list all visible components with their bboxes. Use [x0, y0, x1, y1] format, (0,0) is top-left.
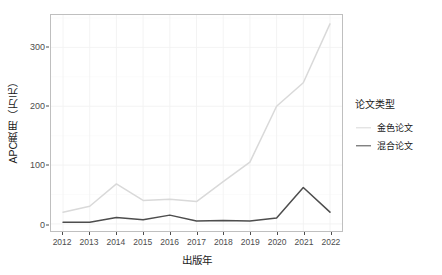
series-line-0	[63, 24, 330, 212]
x-tick-label: 2022	[321, 237, 340, 247]
x-tick-mark	[277, 232, 278, 235]
y-tick-label: 100	[20, 160, 45, 170]
x-tick-label: 2018	[214, 237, 233, 247]
y-axis-title-label: APC费用（万元）	[5, 76, 20, 164]
legend-item-label: 混合论文	[377, 139, 413, 152]
y-tick-mark	[46, 224, 49, 225]
y-tick-label: 300	[20, 42, 45, 52]
legend-key-line-icon	[355, 121, 372, 134]
x-tick-label: 2016	[160, 237, 179, 247]
x-tick-label: 2015	[133, 237, 152, 247]
x-tick-label: 2021	[295, 237, 314, 247]
x-tick-mark	[116, 232, 117, 235]
legend-item[interactable]: 金色论文	[355, 120, 440, 135]
y-axis-tick-labels: 0100200300	[20, 0, 45, 275]
legend-item-label: 金色论文	[377, 121, 413, 134]
x-tick-label: 2017	[187, 237, 206, 247]
legend-item[interactable]: 混合论文	[355, 138, 440, 153]
x-tick-label: 2012	[53, 237, 72, 247]
x-tick-mark	[223, 232, 224, 235]
y-tick-mark	[46, 46, 49, 47]
x-tick-label: 2020	[268, 237, 287, 247]
series-lines	[51, 15, 342, 231]
legend-items: 金色论文混合论文	[355, 120, 440, 153]
x-tick-mark	[197, 232, 198, 235]
x-tick-mark	[143, 232, 144, 235]
x-tick-mark	[304, 232, 305, 235]
y-tick-label: 200	[20, 101, 45, 111]
line-chart: APC费用（万元） 0100200300 2012201320142015201…	[0, 0, 442, 275]
y-tick-mark	[46, 106, 49, 107]
x-tick-label: 2013	[80, 237, 99, 247]
x-axis-title: 出版年	[50, 252, 343, 267]
x-tick-mark	[89, 232, 90, 235]
series-line-1	[63, 187, 330, 222]
x-tick-mark	[62, 232, 63, 235]
legend-title: 论文类型	[355, 96, 440, 111]
x-tick-label: 2014	[106, 237, 125, 247]
x-tick-mark	[331, 232, 332, 235]
y-tick-label: 0	[20, 220, 45, 230]
x-tick-mark	[170, 232, 171, 235]
legend: 论文类型 金色论文混合论文	[355, 96, 440, 156]
y-tick-mark	[46, 165, 49, 166]
legend-key-line-icon	[355, 139, 372, 152]
x-tick-mark	[250, 232, 251, 235]
plot-panel	[50, 14, 343, 232]
x-tick-label: 2019	[241, 237, 260, 247]
